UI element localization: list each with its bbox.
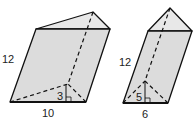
right-prism-base-label: 6 (142, 108, 148, 120)
right-prism-top-face (148, 8, 192, 31)
right-prism: 12 5 6 (119, 8, 192, 120)
left-prism-top-face (36, 12, 110, 29)
left-prism-edge-label: 12 (2, 53, 14, 65)
right-prism-height-label: 5 (136, 91, 142, 103)
prisms-diagram: 12 10 3 12 5 6 (0, 0, 196, 126)
left-prism-base-label: 10 (42, 107, 54, 119)
right-prism-edge-label: 12 (119, 56, 131, 68)
left-prism: 12 10 3 (2, 12, 110, 119)
left-prism-height-label: 3 (57, 90, 63, 102)
